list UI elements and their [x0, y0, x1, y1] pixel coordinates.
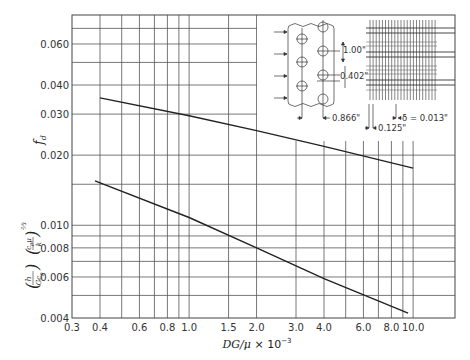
y-tick-label: 0.040 — [40, 80, 69, 91]
y-tick-label: 0.004 — [40, 313, 69, 324]
x-tick-label: 0.4 — [92, 322, 108, 333]
svg-text:): ) — [23, 264, 42, 271]
x-tick-label: 3.0 — [288, 322, 304, 333]
svg-text:δ = 0.013": δ = 0.013" — [402, 113, 448, 123]
x-tick-label: 0.8 — [159, 322, 175, 333]
y-axis-label-fd: fd — [32, 135, 48, 146]
svg-text:): ) — [23, 231, 42, 238]
y-tick-label: 0.006 — [40, 272, 69, 283]
svg-text:fd: fd — [32, 135, 48, 146]
x-tick-label: 0.6 — [131, 322, 147, 333]
x-tick-label: 1.0 — [181, 322, 197, 333]
svg-text:1.00": 1.00" — [343, 45, 366, 55]
y-tick-label: 0.010 — [40, 220, 69, 231]
x-tick-label: 4.0 — [316, 322, 332, 333]
svg-text:0.125": 0.125" — [378, 123, 406, 133]
x-tick-label: 6.0 — [355, 322, 371, 333]
y-tick-label: 0.030 — [40, 109, 69, 120]
svg-text:k: k — [35, 242, 43, 246]
x-tick-labels: 0.30.40.60.81.01.52.03.04.06.08.010.0 — [64, 322, 424, 333]
series-line-2 — [95, 181, 408, 313]
svg-text:0.866": 0.866" — [332, 113, 360, 123]
x-tick-label: 1.5 — [221, 322, 237, 333]
y-tick-labels: 0.0040.0060.0080.0100.0200.0300.0400.060 — [40, 39, 69, 324]
x-tick-label: 8.0 — [383, 322, 399, 333]
chart: 0.30.40.60.81.01.52.03.04.06.08.010.0 0.… — [0, 0, 470, 360]
x-axis-label: DG/μ × 10−3 — [221, 337, 291, 351]
x-tick-label: 10.0 — [402, 322, 424, 333]
svg-text:0.402": 0.402" — [340, 71, 368, 81]
y-tick-label: 0.020 — [40, 150, 69, 161]
y-tick-label: 0.060 — [40, 39, 69, 50]
y-tick-label: 0.008 — [40, 243, 69, 254]
svg-text:⅔: ⅔ — [19, 222, 28, 230]
svg-text:cpμ: cpμ — [25, 238, 35, 250]
x-tick-label: 2.0 — [249, 322, 265, 333]
y-axis-label-j-factor: ( h Gcp ) ( cpμ k ) ⅔ — [19, 222, 45, 289]
svg-text:h: h — [24, 276, 33, 281]
